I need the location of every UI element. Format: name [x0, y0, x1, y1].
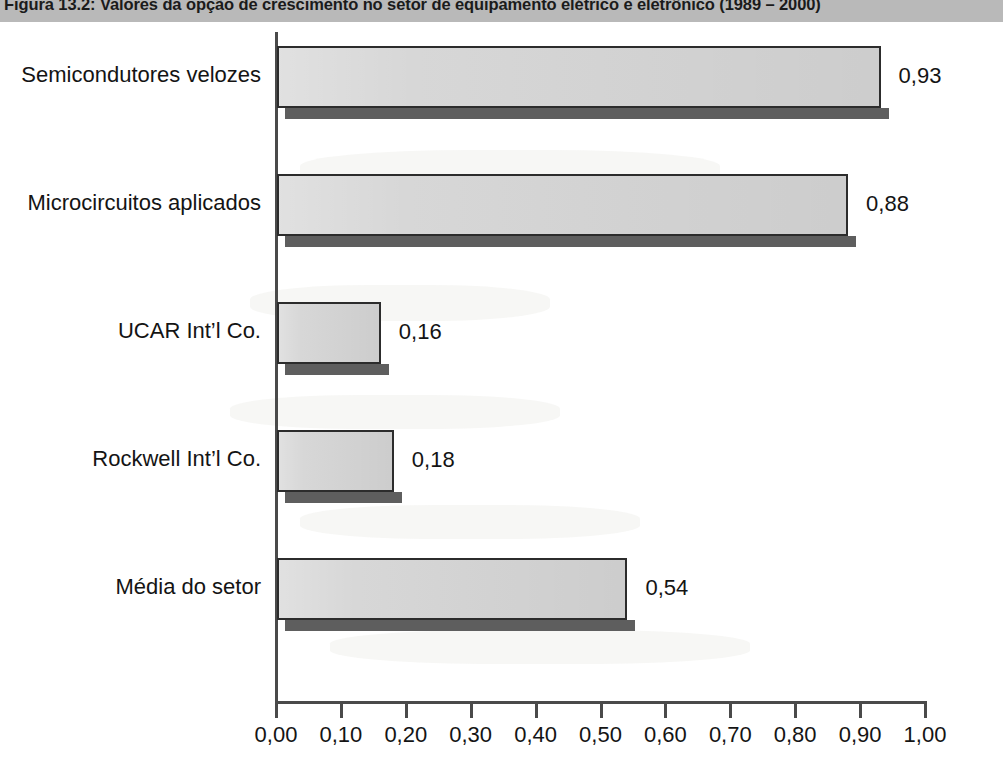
- bar-body: [277, 558, 627, 620]
- figure-title: Figura 13.2: Valores da opção de crescim…: [4, 0, 821, 14]
- bar-body: [277, 430, 394, 492]
- value-axis-tick-label: 0,00: [241, 722, 311, 748]
- value-axis-tick-label: 1,00: [890, 722, 960, 748]
- chart-plot-area: 0,000,100,200,300,400,500,600,700,800,90…: [0, 22, 1003, 763]
- bar-value-label: 0,54: [645, 575, 688, 601]
- value-axis-tick: [340, 704, 343, 718]
- value-axis-tick: [924, 704, 927, 718]
- value-axis-tick-label: 0,30: [436, 722, 506, 748]
- value-axis-tick: [859, 704, 862, 718]
- bar-shadow: [285, 236, 856, 247]
- figure-container: Figura 13.2: Valores da opção de crescim…: [0, 0, 1003, 763]
- value-axis-tick-label: 0,90: [825, 722, 895, 748]
- bar-shadow: [285, 108, 889, 119]
- category-label: Rockwell Int’l Co.: [92, 446, 261, 472]
- bar-body: [277, 46, 881, 108]
- figure-title-band: Figura 13.2: Valores da opção de crescim…: [0, 0, 1003, 22]
- value-axis-tick-label: 0,40: [501, 722, 571, 748]
- bar-shadow: [285, 364, 389, 375]
- value-axis-tick: [600, 704, 603, 718]
- value-axis-tick-label: 0,20: [371, 722, 441, 748]
- bar-shadow: [285, 492, 402, 503]
- bar[interactable]: [277, 174, 848, 247]
- category-label: Média do setor: [115, 574, 261, 600]
- bar-body: [277, 174, 848, 236]
- bar[interactable]: [277, 558, 627, 631]
- bar-value-label: 0,93: [899, 63, 942, 89]
- bar[interactable]: [277, 430, 394, 503]
- bar[interactable]: [277, 46, 881, 119]
- category-label: Semicondutores velozes: [21, 62, 261, 88]
- value-axis-tick-label: 0,50: [566, 722, 636, 748]
- bar-value-label: 0,16: [399, 319, 442, 345]
- category-axis-labels: Semicondutores velozesMicrocircuitos apl…: [0, 22, 261, 722]
- bar-value-label: 0,18: [412, 447, 455, 473]
- value-axis-tick-label: 0,70: [695, 722, 765, 748]
- bar-body: [277, 302, 381, 364]
- value-axis-tick: [470, 704, 473, 718]
- value-axis-tick-label: 0,10: [306, 722, 376, 748]
- bar-value-label: 0,88: [866, 191, 909, 217]
- value-axis-tick: [275, 704, 278, 718]
- category-label: UCAR Int’l Co.: [118, 318, 261, 344]
- value-axis-tick: [535, 704, 538, 718]
- value-axis-tick: [794, 704, 797, 718]
- bar-shadow: [285, 620, 635, 631]
- category-label: Microcircuitos aplicados: [27, 190, 261, 216]
- bar[interactable]: [277, 302, 381, 375]
- value-axis-tick-label: 0,60: [630, 722, 700, 748]
- value-axis-tick: [405, 704, 408, 718]
- value-axis-tick: [664, 704, 667, 718]
- value-axis-tick-label: 0,80: [760, 722, 830, 748]
- value-axis-tick: [729, 704, 732, 718]
